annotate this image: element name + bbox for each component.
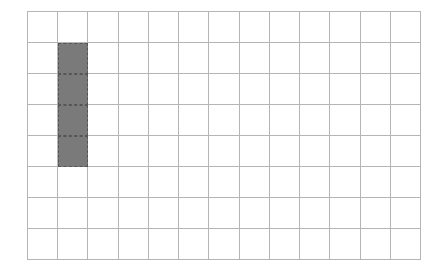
grid-cell[interactable] bbox=[209, 229, 239, 260]
grid-cell[interactable] bbox=[240, 229, 270, 260]
grid-cell[interactable] bbox=[179, 43, 209, 74]
grid-cell[interactable] bbox=[179, 105, 209, 136]
grid-cell[interactable] bbox=[270, 12, 300, 43]
grid-cell[interactable] bbox=[209, 43, 239, 74]
grid-cell[interactable] bbox=[300, 43, 330, 74]
grid-cell[interactable] bbox=[300, 12, 330, 43]
grid-cell[interactable] bbox=[28, 198, 58, 229]
grid-cell[interactable] bbox=[330, 12, 360, 43]
grid-cell[interactable] bbox=[240, 74, 270, 105]
grid-cell[interactable] bbox=[58, 12, 88, 43]
grid-cell[interactable] bbox=[391, 229, 421, 260]
grid-cell[interactable] bbox=[209, 198, 239, 229]
grid-cell[interactable] bbox=[88, 136, 118, 167]
grid-cell[interactable] bbox=[300, 74, 330, 105]
grid-cell[interactable] bbox=[361, 136, 391, 167]
grid-cell[interactable] bbox=[149, 229, 179, 260]
grid-cell[interactable] bbox=[330, 229, 360, 260]
grid-cell[interactable] bbox=[209, 74, 239, 105]
grid-cell[interactable] bbox=[300, 198, 330, 229]
grid-cell-filled[interactable] bbox=[58, 105, 88, 136]
grid-cell[interactable] bbox=[149, 167, 179, 198]
grid-cell[interactable] bbox=[119, 43, 149, 74]
grid-cell[interactable] bbox=[58, 198, 88, 229]
grid-cell[interactable] bbox=[88, 198, 118, 229]
grid-cell[interactable] bbox=[361, 43, 391, 74]
grid-cell[interactable] bbox=[270, 105, 300, 136]
grid-cell[interactable] bbox=[179, 167, 209, 198]
grid-cell[interactable] bbox=[179, 198, 209, 229]
grid-cell[interactable] bbox=[391, 43, 421, 74]
grid-cell[interactable] bbox=[149, 43, 179, 74]
grid-cell[interactable] bbox=[240, 136, 270, 167]
grid-cell[interactable] bbox=[330, 136, 360, 167]
grid-cell[interactable] bbox=[391, 105, 421, 136]
grid-cell[interactable] bbox=[300, 105, 330, 136]
grid-cell[interactable] bbox=[149, 12, 179, 43]
grid-cell[interactable] bbox=[88, 167, 118, 198]
grid-cell[interactable] bbox=[149, 105, 179, 136]
grid-cell[interactable] bbox=[391, 167, 421, 198]
grid-cell[interactable] bbox=[361, 229, 391, 260]
grid-cell[interactable] bbox=[391, 12, 421, 43]
grid-cell[interactable] bbox=[179, 229, 209, 260]
grid-cell[interactable] bbox=[179, 136, 209, 167]
grid-cell[interactable] bbox=[119, 12, 149, 43]
grid-cell[interactable] bbox=[28, 136, 58, 167]
grid-cell[interactable] bbox=[209, 12, 239, 43]
grid-cell[interactable] bbox=[270, 198, 300, 229]
grid-cell[interactable] bbox=[209, 167, 239, 198]
grid-cell[interactable] bbox=[391, 136, 421, 167]
grid-cell-filled[interactable] bbox=[58, 74, 88, 105]
grid-cell[interactable] bbox=[209, 136, 239, 167]
grid-cell[interactable] bbox=[330, 198, 360, 229]
grid-cell[interactable] bbox=[300, 229, 330, 260]
grid-cell[interactable] bbox=[179, 12, 209, 43]
grid-cell[interactable] bbox=[119, 105, 149, 136]
grid-cell[interactable] bbox=[28, 43, 58, 74]
grid-cell[interactable] bbox=[149, 136, 179, 167]
grid-cell[interactable] bbox=[88, 12, 118, 43]
grid-cell[interactable] bbox=[88, 105, 118, 136]
grid-cell[interactable] bbox=[240, 12, 270, 43]
grid-cell[interactable] bbox=[240, 167, 270, 198]
grid-cell[interactable] bbox=[361, 167, 391, 198]
grid-cell[interactable] bbox=[119, 167, 149, 198]
grid-cell[interactable] bbox=[300, 167, 330, 198]
grid-cell[interactable] bbox=[240, 198, 270, 229]
grid-cell[interactable] bbox=[330, 74, 360, 105]
grid-cell[interactable] bbox=[119, 229, 149, 260]
grid-cell[interactable] bbox=[28, 105, 58, 136]
grid-cell[interactable] bbox=[240, 43, 270, 74]
grid-cell[interactable] bbox=[28, 74, 58, 105]
grid-cell[interactable] bbox=[58, 229, 88, 260]
grid-cell[interactable] bbox=[149, 74, 179, 105]
grid-cell-filled[interactable] bbox=[58, 136, 88, 167]
grid-cell[interactable] bbox=[361, 74, 391, 105]
grid-cell[interactable] bbox=[240, 105, 270, 136]
grid-cell[interactable] bbox=[119, 74, 149, 105]
grid-cell[interactable] bbox=[119, 136, 149, 167]
grid-cell[interactable] bbox=[58, 167, 88, 198]
grid-cell[interactable] bbox=[300, 136, 330, 167]
grid-cell[interactable] bbox=[270, 43, 300, 74]
grid-cell[interactable] bbox=[28, 229, 58, 260]
grid-cell[interactable] bbox=[119, 198, 149, 229]
grid-cell[interactable] bbox=[28, 167, 58, 198]
grid-cell[interactable] bbox=[391, 74, 421, 105]
grid-cell[interactable] bbox=[270, 136, 300, 167]
grid-cell[interactable] bbox=[88, 43, 118, 74]
grid-cell[interactable] bbox=[361, 198, 391, 229]
grid-cell[interactable] bbox=[209, 105, 239, 136]
grid-cell[interactable] bbox=[270, 229, 300, 260]
grid-cell[interactable] bbox=[88, 229, 118, 260]
cell-grid[interactable] bbox=[27, 11, 421, 260]
grid-cell[interactable] bbox=[270, 74, 300, 105]
grid-cell[interactable] bbox=[28, 12, 58, 43]
grid-cell[interactable] bbox=[270, 167, 300, 198]
grid-cell[interactable] bbox=[88, 74, 118, 105]
grid-cell[interactable] bbox=[179, 74, 209, 105]
grid-cell[interactable] bbox=[330, 43, 360, 74]
grid-cell[interactable] bbox=[330, 167, 360, 198]
grid-cell[interactable] bbox=[361, 12, 391, 43]
